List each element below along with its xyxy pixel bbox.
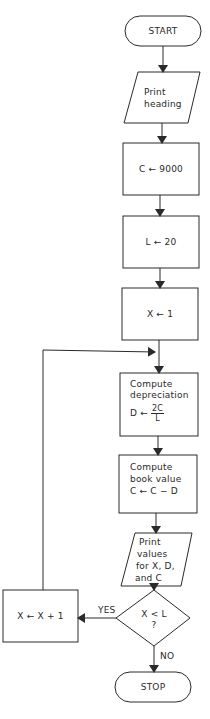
print-heading-line2: heading xyxy=(144,98,182,110)
no-label: NO xyxy=(160,650,174,662)
formula-denominator: L xyxy=(151,414,164,423)
increment-x-label: X ← X + 1 xyxy=(3,610,78,622)
start-label: START xyxy=(125,25,201,37)
print-values-line2: values xyxy=(137,548,167,560)
init-l-label: L ← 20 xyxy=(123,236,199,248)
print-values-line1: Print xyxy=(139,536,161,548)
compute-book-line1: Compute xyxy=(130,461,172,473)
stop-label: STOP xyxy=(115,681,191,693)
decision-line2: ? xyxy=(124,619,184,631)
yes-label: YES xyxy=(98,604,116,616)
depreciation-formula: D ← 2C L xyxy=(130,404,164,423)
compute-book-line2: book value xyxy=(130,473,181,485)
init-x-label: X ← 1 xyxy=(122,308,198,320)
print-heading-line1: Print xyxy=(144,86,166,98)
formula-numerator: 2C xyxy=(151,404,164,414)
compute-book-line3: C ← C − D xyxy=(130,485,178,497)
print-values-line3: for X, D, xyxy=(136,560,175,572)
print-values-line4: and C xyxy=(135,572,162,584)
formula-lhs: D ← xyxy=(130,408,148,418)
formula-fraction: 2C L xyxy=(151,404,164,423)
compute-dep-line2: depreciation xyxy=(130,389,189,401)
init-c-label: C ← 9000 xyxy=(123,163,199,175)
